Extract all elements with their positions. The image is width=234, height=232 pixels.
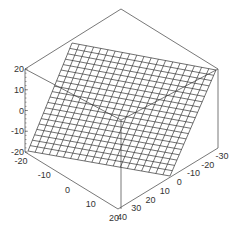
y-tick-label: -10 xyxy=(187,168,200,178)
y-tick-label: 30 xyxy=(131,203,141,213)
z-tick-label: 20 xyxy=(14,64,24,74)
surface-plot: 20100-10-20 -20-1001020 403020100-10-20-… xyxy=(0,0,234,232)
y-tick-label: 40 xyxy=(117,212,127,222)
y-tick-label: 0 xyxy=(177,177,182,187)
x-tick-label: 10 xyxy=(86,199,96,209)
x-tick-label: -10 xyxy=(38,170,51,180)
x-tick-label: -20 xyxy=(14,156,27,166)
y-tick-label: 10 xyxy=(160,186,170,196)
y-tick-label: 20 xyxy=(146,195,156,205)
y-tick-label: -30 xyxy=(215,151,228,161)
x-tick-label: 0 xyxy=(65,185,70,195)
box-edge-inner-left xyxy=(25,69,121,120)
box-edge-bottom-left xyxy=(25,152,118,209)
y-tick-label: -20 xyxy=(201,160,214,170)
z-tick-label: 0 xyxy=(19,106,24,116)
z-tick-label: 10 xyxy=(14,85,24,95)
surface-mesh xyxy=(28,43,216,176)
y-axis-ticks: 403020100-10-20-30 xyxy=(117,151,229,222)
box-edge-bottom-right xyxy=(118,148,218,209)
z-axis-ticks: 20100-10-20 xyxy=(11,64,28,157)
z-tick-label: -10 xyxy=(11,126,24,136)
x-axis-ticks: -20-1001020 xyxy=(14,156,119,223)
box-edge-top-right xyxy=(121,9,218,69)
